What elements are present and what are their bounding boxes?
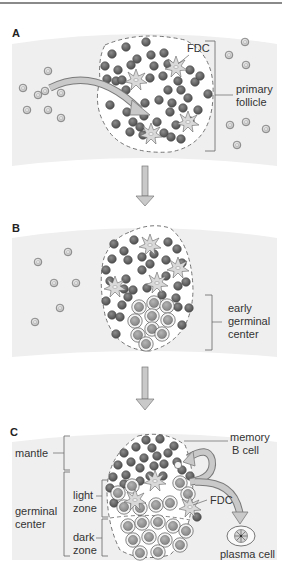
plasma-cell-label: plasma cell <box>220 548 275 560</box>
panel-letter-a: A <box>12 27 20 39</box>
dark-zone-label-line2: zone <box>73 544 97 556</box>
follicle-label-line1: primary <box>236 83 273 95</box>
mantle-label: mantle <box>15 447 48 459</box>
gc-label-line2: center <box>15 518 46 530</box>
panel-a: A <box>12 27 277 166</box>
transition-arrow-2 <box>136 367 154 410</box>
panel-letter-b: B <box>12 222 20 234</box>
germinal-center-diagram: A <box>0 0 287 564</box>
early-gc-label-line2: germinal <box>228 315 270 327</box>
memory-label-line2: B cell <box>232 444 259 456</box>
light-zone-label-line2: zone <box>73 502 97 514</box>
early-gc-label-line1: early <box>228 302 252 314</box>
memory-label-line1: memory <box>230 431 270 443</box>
memory-b-cell <box>174 461 181 468</box>
fdc-label-a: FDC <box>187 42 210 54</box>
panel-letter-c: C <box>10 426 18 438</box>
light-zone-label-line1: light <box>73 489 93 501</box>
dark-zone-label-line1: dark <box>73 531 95 543</box>
fdc-label-c: FDC <box>210 494 233 506</box>
plasma-cell <box>227 526 255 546</box>
panel-b: B <box>12 222 277 357</box>
panel-c: C <box>10 426 277 560</box>
early-gc-label-line3: center <box>228 328 259 340</box>
transition-arrow-1 <box>136 166 154 206</box>
follicle-label-line2: follicle <box>236 96 267 108</box>
gc-label-line1: germinal <box>15 505 57 517</box>
